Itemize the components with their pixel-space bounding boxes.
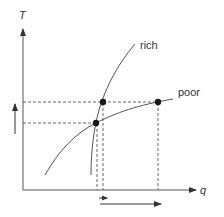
rich-label: rich (140, 39, 158, 51)
upper-rich-point (100, 99, 106, 105)
poor-curve (45, 99, 173, 175)
lower-intersection-point (93, 120, 99, 126)
x-axis-label: q (200, 184, 207, 196)
upper-poor-point (155, 99, 161, 105)
poor-label: poor (178, 86, 200, 98)
diagram-canvas: T q rich poor (0, 0, 224, 217)
y-axis-label: T (19, 9, 27, 21)
